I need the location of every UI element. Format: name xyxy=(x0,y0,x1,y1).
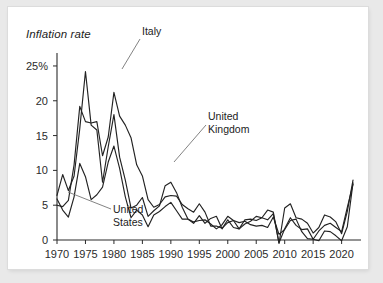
series-line-united-states xyxy=(57,146,353,243)
y-tick-label: 25% xyxy=(26,60,48,72)
x-tick-label: 2000 xyxy=(216,248,240,260)
y-axis-ticks: 0510152025% xyxy=(26,60,57,246)
leader-line-united-kingdom xyxy=(174,125,206,162)
y-tick-label: 15 xyxy=(36,130,48,142)
x-tick-label: 1975 xyxy=(73,248,97,260)
x-tick-label: 1985 xyxy=(130,248,154,260)
x-tick-label: 2020 xyxy=(329,248,353,260)
y-tick-label: 5 xyxy=(42,199,48,211)
y-tick-label: 0 xyxy=(42,234,48,246)
annotation-united-kingdom: UnitedKingdom xyxy=(208,110,250,135)
annotation-united-states: UnitedStates xyxy=(113,203,144,228)
x-tick-label: 2010 xyxy=(272,248,296,260)
series-lines xyxy=(57,72,353,244)
y-tick-label: 20 xyxy=(36,95,48,107)
leader-line-italy xyxy=(122,39,140,69)
y-tick-label: 10 xyxy=(36,164,48,176)
annotation-italy: Italy xyxy=(142,25,162,37)
series-line-united-kingdom xyxy=(57,72,353,244)
x-tick-label: 1990 xyxy=(159,248,183,260)
chart-axes xyxy=(57,53,361,240)
x-tick-label: 2015 xyxy=(301,248,325,260)
page-background: Inflation rate 0510152025% 1970197519801… xyxy=(0,0,383,283)
x-tick-label: 2005 xyxy=(244,248,268,260)
x-axis-ticks: 1970197519801985199019952000200520102015… xyxy=(45,240,354,260)
series-annotations: ItalyUnitedKingdomUnitedStates xyxy=(68,25,250,228)
x-tick-label: 1995 xyxy=(187,248,211,260)
chart-card: Inflation rate 0510152025% 1970197519801… xyxy=(8,7,368,269)
x-tick-label: 1980 xyxy=(102,248,126,260)
x-tick-label: 1970 xyxy=(45,248,69,260)
inflation-line-chart: 0510152025% 1970197519801985199019952000… xyxy=(8,7,368,269)
